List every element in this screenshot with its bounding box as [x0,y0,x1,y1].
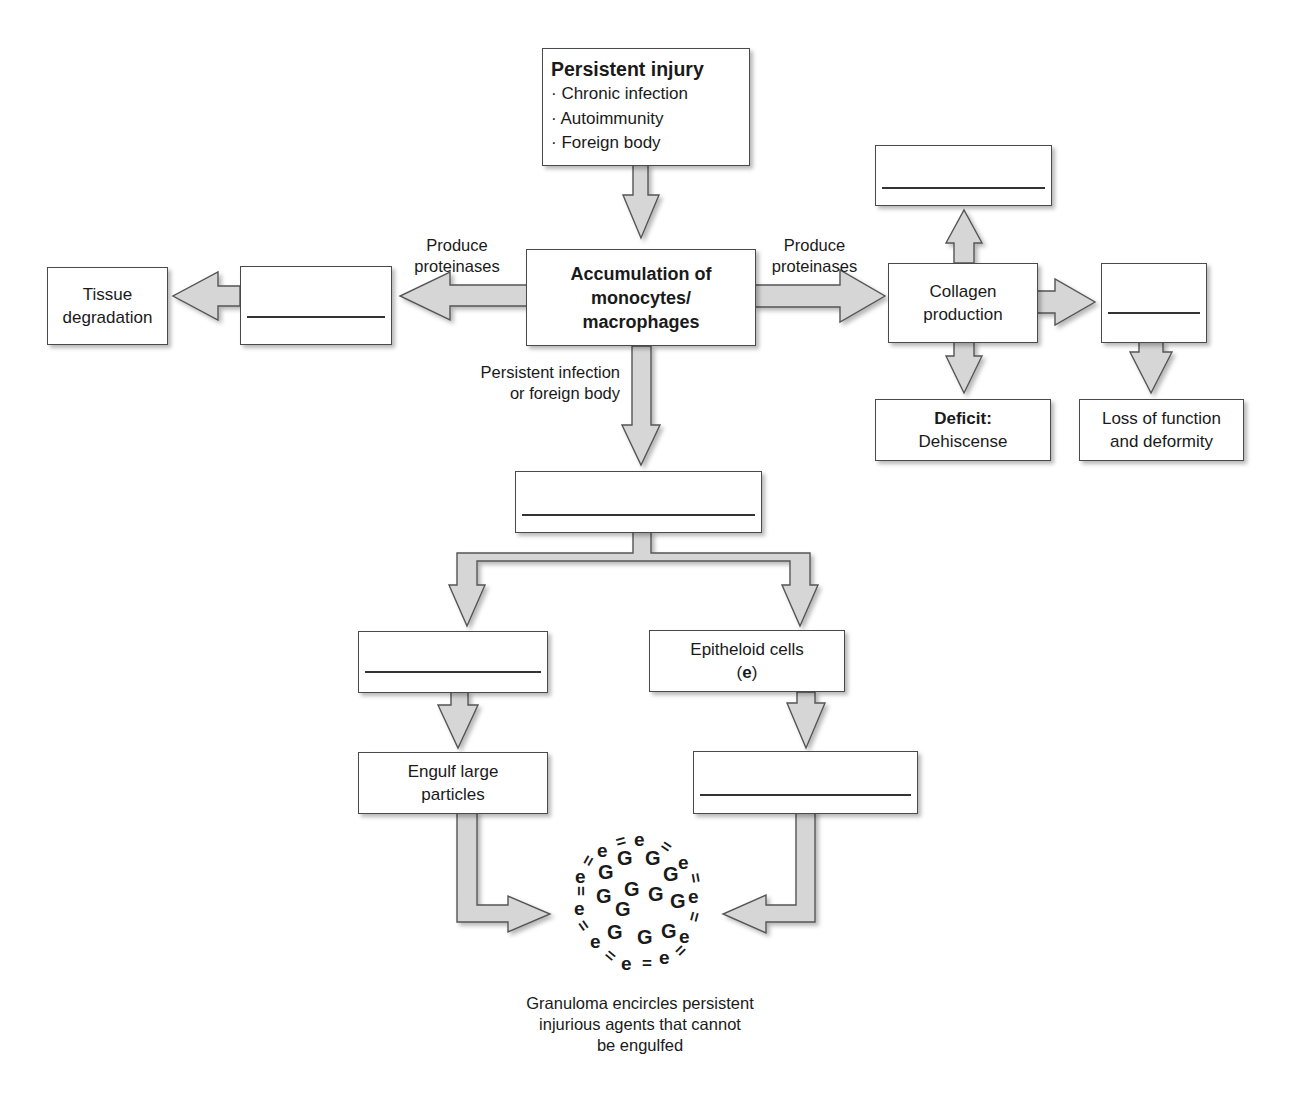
granuloma-caption-line2: injurious agents that cannot [480,1014,800,1035]
epitheloid-cells-box: Epitheloid cells (e) [649,630,845,692]
center-blank-box[interactable] [515,471,762,533]
bullet-autoimmunity: · Autoimmunity [551,107,663,132]
left-proteinases-line1: Produce [392,235,522,256]
right-branch-blank-box[interactable] [693,751,918,814]
collagen-line2: production [923,303,1002,326]
accumulation-box: Accumulation of monocytes/ macrophages [526,249,756,346]
top-right-blank-box[interactable] [875,145,1052,206]
connector-glyph: = [570,886,590,896]
connector-glyph: = [600,945,620,967]
persistent-infection-label: Persistent infection or foreign body [430,362,620,404]
arrow-left-branch-down [438,692,478,748]
diagram-canvas: Persistent injury · Chronic infection · … [0,0,1298,1101]
collagen-production-box: Collagen production [888,263,1038,343]
connector-glyph: = [642,954,652,974]
deficit-heading: Deficit: [934,407,992,430]
giant-cell-glyph: G [637,926,653,949]
left-branch-blank-answer-line[interactable] [365,671,541,673]
loss-line2: and deformity [1110,430,1213,453]
bullet-foreign-body: · Foreign body [551,131,661,156]
right-proteinases-label: Produce proteinases [752,235,877,277]
giant-cell-glyph: G [663,863,679,886]
arrow-engulf-to-granuloma [457,812,550,932]
paren-close: ) [752,663,758,682]
epitheloid-line2: (e) [737,661,758,684]
granuloma-caption-line3: be engulfed [480,1035,800,1056]
left-blank-box[interactable] [240,266,392,345]
epitheloid-glyph: e [574,898,585,920]
engulf-line1: Engulf large [408,760,499,783]
tissue-degradation-box: Tissue degradation [47,267,168,345]
right-proteinases-line2: proteinases [752,256,877,277]
accumulation-line1: Accumulation of [570,262,711,286]
persistent-infection-line2: or foreign body [430,383,620,404]
arrow-center-branch [449,532,818,626]
arrow-accumulation-to-collagen [755,270,885,322]
giant-cell-glyph: G [615,898,631,921]
arrow-right-blank-down [1130,342,1172,393]
epitheloid-glyph: e [688,886,699,908]
collagen-line1: Collagen [929,280,996,303]
right-proteinases-line1: Produce [752,235,877,256]
right-blank-box[interactable] [1101,263,1207,343]
center-blank-answer-line[interactable] [522,514,755,516]
giant-cell-glyph: G [648,883,664,906]
accumulation-line2: monocytes/ [591,286,691,310]
granuloma-caption-line1: Granuloma encircles persistent [480,993,800,1014]
epitheloid-glyph: e [597,840,608,862]
deficit-box: Deficit: Dehiscense [875,399,1051,461]
granuloma-caption: Granuloma encircles persistent injurious… [480,993,800,1056]
epitheloid-glyph: e [575,866,586,888]
persistent-injury-box: Persistent injury · Chronic infection · … [542,48,750,166]
epitheloid-glyph: e [590,931,601,953]
persistent-infection-line1: Persistent infection [430,362,620,383]
arrow-collagen-to-right-blank [1037,279,1095,325]
loss-of-function-box: Loss of function and deformity [1079,399,1244,461]
connector-glyph: = [684,910,706,925]
connector-glyph: = [684,871,705,884]
loss-line1: Loss of function [1102,407,1221,430]
epitheloid-symbol: e [742,663,751,682]
tissue-degradation-line2: degradation [63,306,153,329]
engulf-line2: particles [421,783,484,806]
accumulation-line3: macrophages [582,310,699,334]
right-blank-answer-line[interactable] [1108,312,1200,314]
epitheloid-glyph: e [621,953,632,975]
giant-cell-glyph: G [607,921,623,944]
epitheloid-line1: Epitheloid cells [690,638,803,661]
epitheloid-glyph: e [678,852,689,874]
arrow-left-blank-to-tissue [173,272,240,320]
left-blank-answer-line[interactable] [247,316,385,318]
arrow-injury-to-accumulation [623,165,659,238]
deficit-text: Dehiscense [919,430,1008,453]
persistent-injury-title: Persistent injury [551,57,704,81]
epitheloid-glyph: e [659,947,670,969]
bullet-chronic-infection: · Chronic infection [551,82,688,107]
giant-cell-glyph: G [596,885,612,908]
arrow-right-branch-to-granuloma [723,811,815,933]
left-proteinases-line2: proteinases [392,256,522,277]
giant-cell-glyph: G [661,920,677,943]
arrow-collagen-down [946,342,982,393]
arrow-epitheloid-down [787,692,825,748]
top-right-blank-answer-line[interactable] [882,187,1045,189]
right-branch-blank-answer-line[interactable] [700,794,911,796]
arrow-collagen-up [946,210,982,263]
connector-glyph: = [656,836,676,858]
tissue-degradation-line1: Tissue [83,283,132,306]
engulf-large-particles-box: Engulf large particles [358,752,548,814]
arrow-accumulation-to-left-blank [400,272,530,320]
left-proteinases-label: Produce proteinases [392,235,522,277]
epitheloid-glyph: e [634,829,645,851]
arrow-accumulation-to-center [622,346,660,465]
granuloma-illustration: G G G G G G G G G G G G e e e e e e e e … [560,840,720,990]
giant-cell-glyph: G [670,890,686,913]
giant-cell-glyph: G [598,861,614,884]
left-branch-blank-box[interactable] [358,631,548,693]
